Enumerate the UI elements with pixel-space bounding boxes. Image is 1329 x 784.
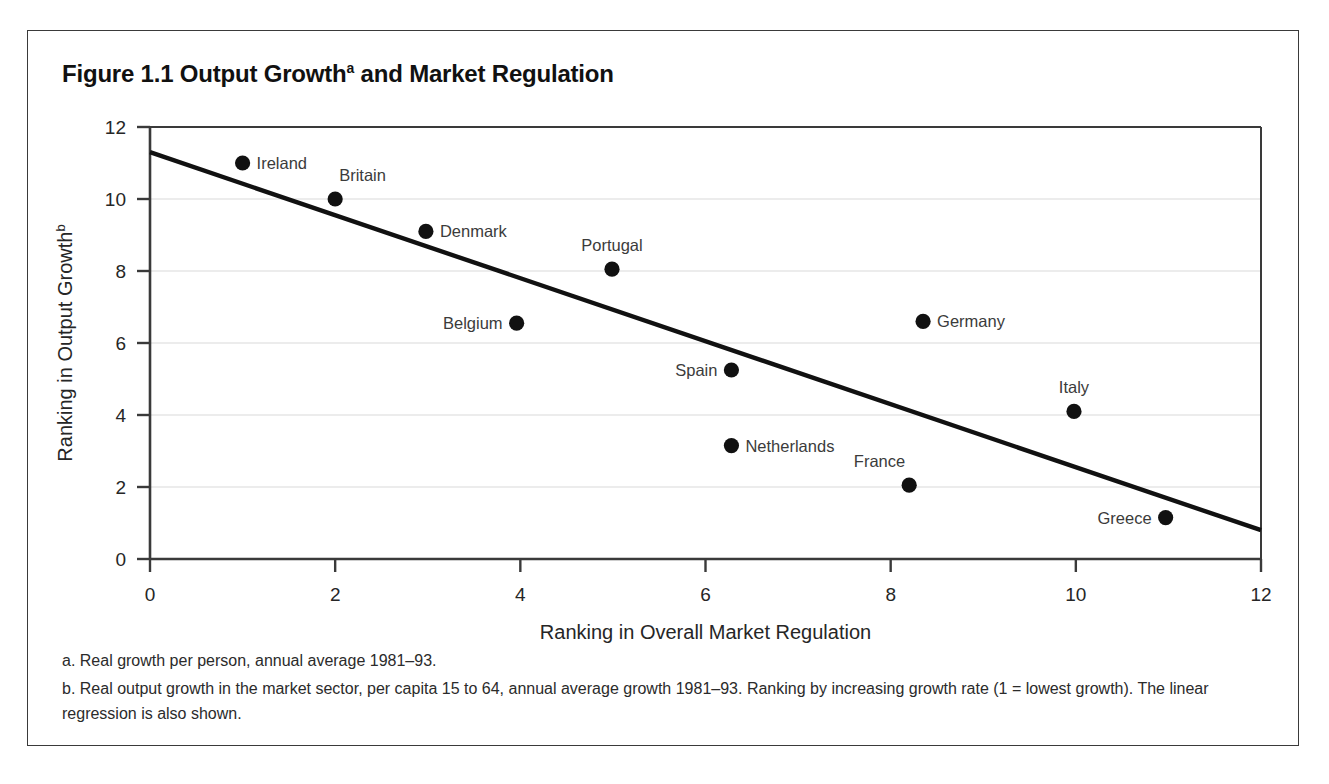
axis-titles: Ranking in Overall Market RegulationRank… — [53, 224, 871, 643]
chart-plot-area: 024681012024681012 IrelandBritainDenmark… — [28, 31, 1300, 747]
footnote-b: b. Real output growth in the market sect… — [62, 676, 1262, 726]
data-point-label-germany: Germany — [937, 312, 1006, 330]
data-point-britain — [328, 191, 343, 206]
x-tick-label-0: 0 — [145, 584, 156, 605]
x-tick-label-4: 4 — [515, 584, 526, 605]
footnotes: a. Real growth per person, annual averag… — [62, 648, 1262, 729]
y-tick-label-8: 8 — [115, 261, 126, 282]
data-point-netherlands — [724, 438, 739, 453]
scatter-chart: 024681012024681012 IrelandBritainDenmark… — [28, 31, 1300, 747]
y-axis-title-superscript: b — [53, 224, 68, 231]
data-point-france — [902, 478, 917, 493]
data-point-label-portugal: Portugal — [581, 236, 642, 254]
y-tick-label-2: 2 — [115, 477, 126, 498]
y-tick-label-0: 0 — [115, 549, 126, 570]
x-tick-label-2: 2 — [330, 584, 341, 605]
data-point-label-denmark: Denmark — [440, 222, 508, 240]
data-point-label-ireland: Ireland — [257, 154, 307, 172]
regression-line — [150, 152, 1261, 530]
data-point-label-greece: Greece — [1098, 509, 1152, 527]
data-point-label-belgium: Belgium — [443, 314, 503, 332]
y-tick-label-12: 12 — [105, 117, 126, 138]
x-tick-label-6: 6 — [700, 584, 711, 605]
x-tick-label-10: 10 — [1065, 584, 1086, 605]
data-point-label-italy: Italy — [1059, 378, 1090, 396]
y-axis-title: Ranking in Output Growthb — [53, 224, 76, 461]
data-point-label-britain: Britain — [339, 166, 386, 184]
data-point-label-netherlands: Netherlands — [745, 437, 834, 455]
data-point-ireland — [235, 155, 250, 170]
data-point-label-france: France — [854, 452, 905, 470]
data-point-italy — [1066, 404, 1081, 419]
y-tick-label-6: 6 — [115, 333, 126, 354]
y-tick-label-4: 4 — [115, 405, 126, 426]
x-tick-label-12: 12 — [1250, 584, 1271, 605]
footnote-a: a. Real growth per person, annual averag… — [62, 648, 1262, 673]
y-tick-label-10: 10 — [105, 189, 126, 210]
regression-line-segment — [150, 152, 1261, 530]
y-axis-title-text: Ranking in Output Growth — [54, 232, 76, 462]
data-point-germany — [915, 314, 930, 329]
data-point-belgium — [509, 316, 524, 331]
data-point-label-spain: Spain — [675, 361, 717, 379]
x-tick-label-8: 8 — [885, 584, 896, 605]
figure-card: Figure 1.1 Output Growtha and Market Reg… — [27, 30, 1299, 746]
data-point-denmark — [418, 224, 433, 239]
x-axis-title: Ranking in Overall Market Regulation — [540, 621, 871, 643]
gridlines — [150, 127, 1261, 487]
data-point-portugal — [604, 262, 619, 277]
axis-ticks — [137, 127, 1261, 572]
data-point-spain — [724, 362, 739, 377]
data-point-greece — [1158, 510, 1173, 525]
